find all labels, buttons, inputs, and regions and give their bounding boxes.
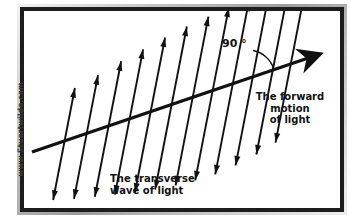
oscillation-arrowhead-up-icon bbox=[224, 11, 230, 18]
diagram-canvas: 90 ° The forward motion of light The tra… bbox=[24, 11, 340, 208]
forward-motion-label: The forward motion of light bbox=[247, 91, 333, 126]
oscillation-arrow bbox=[214, 11, 250, 174]
watermark-text: www.Stuartwilde.com bbox=[16, 57, 25, 177]
angle-label: 90 ° bbox=[222, 38, 247, 50]
oscillation-arrow-shaft bbox=[236, 11, 269, 165]
oscillation-arrow-shaft bbox=[215, 11, 249, 174]
transverse-wave-label: The transverse wave of light bbox=[110, 173, 240, 196]
figure-root: 90 ° The forward motion of light The tra… bbox=[0, 0, 351, 219]
watermark-strip: www.Stuartwilde.com bbox=[0, 0, 17, 219]
oscillation-arrow bbox=[234, 11, 269, 165]
oscillation-arrow bbox=[255, 11, 289, 154]
